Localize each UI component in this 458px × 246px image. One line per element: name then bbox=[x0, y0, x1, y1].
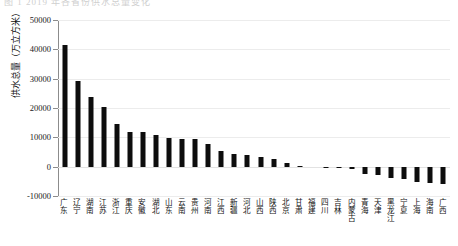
x-axis-label: 浙江 bbox=[111, 198, 123, 214]
x-axis-label: 福建 bbox=[307, 198, 319, 214]
x-axis-label-text: 甘肃 bbox=[294, 198, 302, 214]
x-axis-label: 重庆 bbox=[124, 198, 136, 214]
x-axis-label-text: 内蒙古 bbox=[346, 198, 354, 222]
bar bbox=[372, 20, 385, 196]
x-axis-label: 内蒙古 bbox=[346, 198, 358, 222]
y-axis-tick-label: 0 bbox=[1, 163, 51, 172]
x-axis-label-text: 江苏 bbox=[98, 198, 106, 214]
x-axis-label-text: 海南 bbox=[424, 198, 432, 214]
x-axis-label: 河北 bbox=[241, 198, 253, 214]
x-axis-label-text: 广西 bbox=[437, 198, 445, 214]
bar bbox=[71, 20, 84, 196]
y-axis-tick-label: 10000 bbox=[1, 133, 51, 142]
bar bbox=[149, 20, 162, 196]
x-axis-label-text: 江西 bbox=[215, 198, 223, 214]
bar bbox=[345, 20, 358, 196]
bar-rect bbox=[245, 155, 250, 166]
x-axis-label-text: 新疆 bbox=[228, 198, 236, 214]
bar bbox=[84, 20, 97, 196]
x-axis-label: 河南 bbox=[202, 198, 214, 214]
bar bbox=[398, 20, 411, 196]
x-axis-label: 湖南 bbox=[85, 198, 97, 214]
x-axis-label: 海南 bbox=[424, 198, 436, 214]
bar bbox=[97, 20, 110, 196]
bar bbox=[136, 20, 149, 196]
bar-rect bbox=[140, 132, 145, 167]
bar-rect bbox=[402, 167, 407, 180]
x-axis-label-text: 河北 bbox=[241, 198, 249, 214]
chart-container: 图 1 2019 年各省份供水总量变化 供水总量（万立方米） -10000010… bbox=[0, 0, 458, 246]
plot-area bbox=[58, 20, 450, 196]
y-axis-tick bbox=[53, 167, 58, 168]
bar bbox=[254, 20, 267, 196]
bar-rect bbox=[271, 159, 276, 167]
bar bbox=[437, 20, 450, 196]
bar bbox=[385, 20, 398, 196]
bar-rect bbox=[284, 163, 289, 166]
x-axis-label: 宁夏 bbox=[398, 198, 410, 214]
x-axis-label: 陕西 bbox=[268, 198, 280, 214]
x-axis-label: 吉林 bbox=[333, 198, 345, 214]
x-axis-label-text: 黑龙江 bbox=[385, 198, 393, 222]
x-axis-label: 安徽 bbox=[137, 198, 149, 214]
bar-rect bbox=[62, 45, 67, 167]
x-axis-label: 北京 bbox=[281, 198, 293, 214]
bar-rect bbox=[127, 132, 132, 167]
bar-rect bbox=[349, 167, 354, 170]
bar-rect bbox=[389, 167, 394, 179]
bar-rect bbox=[258, 157, 263, 167]
y-axis-tick-label: 50000 bbox=[1, 16, 51, 25]
x-axis-label-text: 浙江 bbox=[111, 198, 119, 214]
x-axis-label-text: 吉林 bbox=[333, 198, 341, 214]
bar-rect bbox=[336, 167, 341, 168]
bar bbox=[58, 20, 71, 196]
y-axis-tick-label: 30000 bbox=[1, 75, 51, 84]
x-axis-label: 甘肃 bbox=[294, 198, 306, 214]
bar-rect bbox=[415, 167, 420, 183]
x-axis-label: 湖北 bbox=[150, 198, 162, 214]
bar bbox=[110, 20, 123, 196]
bar bbox=[123, 20, 136, 196]
x-axis-label: 山东 bbox=[163, 198, 175, 214]
x-axis-label: 辽宁 bbox=[72, 198, 84, 214]
x-axis-label-text: 上海 bbox=[411, 198, 419, 214]
y-axis-tick bbox=[53, 49, 58, 50]
bar-rect bbox=[167, 138, 172, 166]
x-axis-label: 青海 bbox=[359, 198, 371, 214]
x-axis-label: 黑龙江 bbox=[385, 198, 397, 222]
bar-rect bbox=[441, 167, 446, 184]
bar-series bbox=[58, 20, 450, 196]
x-axis-label: 天津 bbox=[372, 198, 384, 214]
x-axis-tick-labels: 广东辽宁湖南江苏浙江重庆安徽湖北山东云南贵州河南江西新疆河北山西陕西北京甘肃福建… bbox=[58, 198, 450, 246]
y-axis-tick-labels: -1000001000020000300004000050000 bbox=[0, 20, 51, 196]
x-axis-label-text: 青海 bbox=[359, 198, 367, 214]
bar bbox=[163, 20, 176, 196]
y-axis-tick-label: 40000 bbox=[1, 45, 51, 54]
x-axis-label-text: 云南 bbox=[176, 198, 184, 214]
y-axis-tick bbox=[53, 79, 58, 80]
bar-rect bbox=[101, 107, 106, 166]
x-axis-label-text: 陕西 bbox=[268, 198, 276, 214]
x-axis-label: 江西 bbox=[215, 198, 227, 214]
bar bbox=[306, 20, 319, 196]
clipped-caption-text: 图 1 2019 年各省份供水总量变化 bbox=[4, 0, 151, 8]
x-axis-label: 江苏 bbox=[98, 198, 110, 214]
x-axis-label-text: 福建 bbox=[307, 198, 315, 214]
bar bbox=[319, 20, 332, 196]
bar bbox=[280, 20, 293, 196]
x-axis-label: 四川 bbox=[320, 198, 332, 214]
bar-rect bbox=[206, 144, 211, 166]
x-axis-label-text: 安徽 bbox=[137, 198, 145, 214]
gridline bbox=[58, 196, 450, 197]
bar-rect bbox=[376, 167, 381, 176]
x-axis-label-text: 山西 bbox=[255, 198, 263, 214]
x-axis-label-text: 山东 bbox=[163, 198, 171, 214]
x-axis-label-text: 四川 bbox=[320, 198, 328, 214]
x-axis-label: 广东 bbox=[59, 198, 71, 214]
bar bbox=[241, 20, 254, 196]
bar-rect bbox=[180, 139, 185, 167]
bar bbox=[293, 20, 306, 196]
x-axis-label: 广西 bbox=[437, 198, 449, 214]
bar-rect bbox=[232, 154, 237, 166]
y-axis-tick-label: -10000 bbox=[1, 192, 51, 201]
